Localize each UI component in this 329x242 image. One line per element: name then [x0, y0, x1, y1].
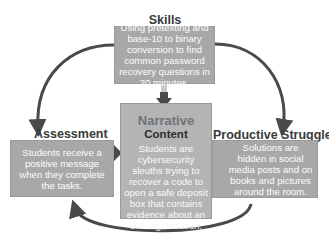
assessment-heading: Assessment — [34, 127, 104, 141]
productive-struggle-box: Solutions are hidden in social media pos… — [212, 140, 318, 198]
narrative-text: Students are cybersecurity sleuths tryin… — [121, 143, 211, 231]
assessment-box: Students receive a positive message when… — [10, 140, 114, 197]
skills-text: Using pretexting and base-10 to binary c… — [115, 22, 214, 88]
content-heading: Content — [144, 128, 187, 141]
assessment-text: Students receive a positive message when… — [11, 147, 113, 191]
curved-arrow-skills-to-assessment — [38, 45, 114, 128]
skills-box: Using pretexting and base-10 to binary c… — [114, 26, 215, 84]
productive-struggle-text: Solutions are hidden in social media pos… — [213, 142, 317, 197]
narrative-heading: Narrative — [138, 114, 194, 128]
curved-arrow-skills-to-productive-struggle — [215, 44, 284, 128]
narrative-content-box: Narrative Content Students are cybersecu… — [120, 103, 212, 219]
